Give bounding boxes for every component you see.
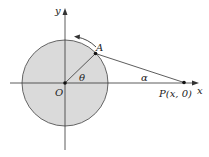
alpha-label: α: [141, 72, 148, 83]
x-axis-label: x: [197, 85, 203, 96]
y-axis-arrow-icon: [63, 8, 68, 15]
rod-ap: [96, 54, 185, 83]
origin-label: O: [55, 87, 63, 98]
origin-point: [63, 81, 67, 85]
y-axis-label: y: [54, 5, 61, 16]
point-a-label: A: [95, 42, 103, 53]
point-p-label: P(x, 0): [158, 88, 192, 99]
rotation-arrow-icon: [74, 35, 80, 40]
diagram-canvas: y x O A P(x, 0) θ α: [0, 0, 209, 157]
point-p: [182, 81, 186, 85]
theta-label: θ: [79, 72, 85, 83]
